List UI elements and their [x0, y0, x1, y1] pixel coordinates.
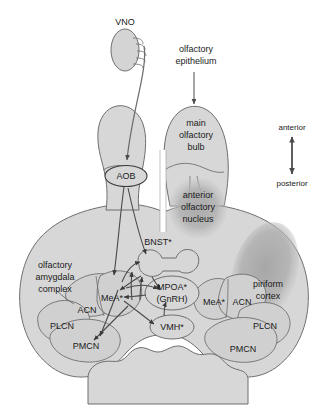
- label-gnrh: (GnRH): [157, 294, 188, 304]
- label-main-olfactory-bulb-line2: olfactory: [179, 130, 214, 140]
- label-olfactory-amygdala-line1: olfactory: [38, 260, 73, 270]
- label-anterior-olfactory-nucleus-line3: nucleus: [182, 214, 214, 224]
- label-mea-right: MeA*: [203, 297, 226, 307]
- mpoa-shape: [145, 276, 199, 310]
- label-mpoa: MPOA*: [157, 282, 188, 292]
- midline-tract-gap: [160, 150, 166, 232]
- label-plcn-right: PLCN: [253, 321, 277, 331]
- label-anterior-olfactory-nucleus-line2: olfactory: [181, 202, 216, 212]
- label-olfactory-epithelium-line1: olfactory: [179, 44, 214, 54]
- axis-label-anterior: anterior: [278, 123, 305, 132]
- label-piriform-cortex-line2: cortex: [256, 291, 281, 301]
- label-main-olfactory-bulb-line3: bulb: [187, 142, 204, 152]
- label-acn-right: ACN: [232, 297, 251, 307]
- label-aob: AOB: [116, 171, 135, 181]
- figure-canvas: anterior posterior VNO olfactory epithel…: [0, 0, 328, 418]
- label-pmcn-left: PMCN: [73, 341, 100, 351]
- axis-label-posterior: posterior: [276, 179, 307, 188]
- label-piriform-cortex-line1: piriform: [253, 279, 283, 289]
- vno-group: [111, 29, 146, 71]
- label-vmh: VMH*: [160, 322, 184, 332]
- olfactory-pathway-diagram: anterior posterior VNO olfactory epithel…: [0, 0, 328, 418]
- label-pmcn-right: PMCN: [230, 344, 257, 354]
- label-olfactory-amygdala-line2: amygdala: [35, 272, 74, 282]
- label-bnst: BNST*: [144, 237, 172, 247]
- label-vno: VNO: [115, 17, 135, 27]
- label-main-olfactory-bulb-line1: main: [186, 118, 206, 128]
- orientation-axis-legend: anterior posterior: [276, 123, 307, 188]
- label-mea-left: MeA*: [101, 293, 124, 303]
- label-olfactory-amygdala-line3: complex: [38, 284, 72, 294]
- label-olfactory-epithelium-line2: epithelium: [175, 56, 216, 66]
- label-plcn-left: PLCN: [50, 321, 74, 331]
- label-acn-left: ACN: [77, 305, 96, 315]
- label-anterior-olfactory-nucleus-line1: anterior: [183, 190, 214, 200]
- left-bulb-shape: [98, 106, 146, 210]
- vno-shape: [111, 29, 139, 71]
